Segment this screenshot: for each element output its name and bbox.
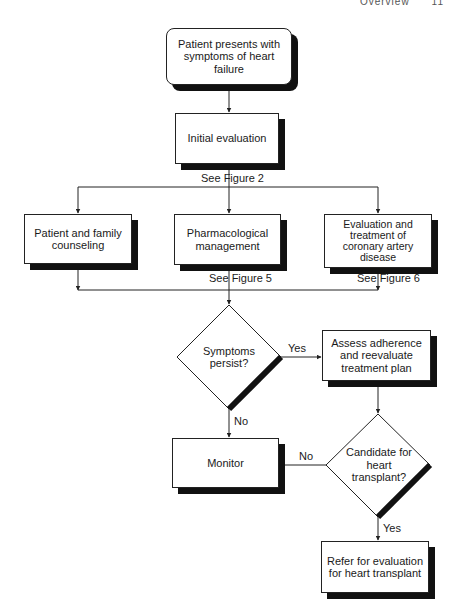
pharmacological-box: Pharmacological management [174, 214, 281, 265]
symptoms-yes-label: Yes [288, 342, 306, 354]
counseling-box: Patient and family counseling [24, 214, 132, 264]
monitor-box: Monitor [172, 438, 279, 488]
monitor-text: Monitor [207, 457, 244, 470]
initial-evaluation-text: Initial evaluation [188, 132, 267, 145]
cad-evaluation-text: Evaluation and treatment of coronary art… [329, 219, 427, 263]
initial-evaluation-box: Initial evaluation [175, 113, 279, 164]
transplant-yes-label: Yes [383, 522, 401, 534]
symptoms-question-text: Symptoms persist? [191, 338, 267, 376]
see-figure-5-label: See Figure 5 [209, 272, 272, 284]
pharmacological-text: Pharmacological management [179, 227, 276, 252]
transplant-question-text: Candidate for heart transplant? [343, 443, 415, 487]
cad-evaluation-box: Evaluation and treatment of coronary art… [324, 214, 432, 268]
counseling-text: Patient and family counseling [29, 227, 127, 252]
see-figure-6-label: See Figure 6 [357, 272, 420, 284]
assess-adherence-text: Assess adherence and reevaluate treatmen… [327, 337, 426, 375]
refer-transplant-box: Refer for evaluation for heart transplan… [321, 541, 429, 593]
start-node-text: Patient presents with symptoms of heart … [171, 38, 287, 76]
start-node: Patient presents with symptoms of heart … [166, 28, 292, 85]
assess-adherence-box: Assess adherence and reevaluate treatmen… [322, 330, 431, 381]
refer-transplant-text: Refer for evaluation for heart transplan… [326, 555, 424, 580]
symptoms-no-label: No [234, 415, 248, 427]
see-figure-2-label: See Figure 2 [201, 172, 264, 184]
transplant-no-label: No [299, 450, 313, 462]
